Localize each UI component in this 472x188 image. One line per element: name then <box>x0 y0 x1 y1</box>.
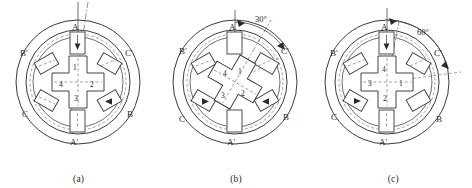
stator-pole-C <box>34 90 59 112</box>
rotation-angle-label: 60° <box>417 27 429 37</box>
pole-body-A <box>227 32 242 54</box>
rotor-number-top: 1 <box>238 67 242 76</box>
panel-b: 30° <box>157 0 314 188</box>
rotor-number-top: 1 <box>73 63 77 72</box>
rotation-angle-label: 30° <box>255 14 267 24</box>
stator-pole-A <box>379 32 394 54</box>
stator-label-lower-right: B <box>436 114 442 124</box>
stator-label-upper-left: B' <box>179 46 187 56</box>
rotor-number-bottom: 3 <box>221 91 225 100</box>
stator-label-top: A <box>381 22 388 32</box>
stator-label-top: A <box>229 22 236 32</box>
figure-row: 1 2 3 4 A B' C' C B A' (a) <box>0 0 472 188</box>
rotor-number-bottom: 2 <box>383 94 387 103</box>
stator-label-upper-right: C' <box>434 48 442 58</box>
rotor-number-left: 3 <box>368 79 372 88</box>
stator-pole-C <box>343 90 368 112</box>
pole-body-Aprime <box>227 110 242 132</box>
stator-pole-Aprime <box>379 110 394 132</box>
pole-body-C <box>34 90 59 112</box>
motor-diagram-a: 1 2 3 4 A B' C' C B A' <box>0 0 157 188</box>
motor-diagram-b: 30° <box>157 0 314 188</box>
stator-label-upper-right: C' <box>281 46 289 56</box>
stator-pole-C <box>191 90 216 112</box>
rotor-number-bottom: 3 <box>74 94 78 103</box>
arc-arrow-end <box>441 61 449 69</box>
stator-label-lower-left: C <box>22 109 28 119</box>
rotor-number-right: 1 <box>399 79 403 88</box>
rotor-number-top: 4 <box>382 65 386 74</box>
panel-caption-c: (c) <box>315 174 472 184</box>
stator-label-lower-right: B <box>127 109 133 119</box>
rotor-number-right: 2 <box>241 89 245 98</box>
stator-pole-Aprime <box>70 110 85 132</box>
panel-caption-b: (b) <box>157 174 314 184</box>
stator-pole-Cprime <box>254 53 279 75</box>
stator-pole-A <box>227 32 242 54</box>
pole-body-Cprime <box>406 53 431 75</box>
pole-body-Cprime <box>97 53 122 75</box>
motor-diagram-c: 60° <box>315 0 472 188</box>
rotor-number-left: 4 <box>223 69 227 78</box>
stator-label-lower-right: B <box>283 112 289 122</box>
stator-label-bottom: A' <box>379 137 387 147</box>
panel-caption-a: (a) <box>0 174 157 184</box>
stator-label-top: A <box>72 22 79 32</box>
stator-pole-Cprime <box>97 53 122 75</box>
stator-label-upper-left: B' <box>20 48 28 58</box>
stator-label-bottom: A' <box>227 137 235 147</box>
stator-pole-Cprime <box>406 53 431 75</box>
stator-label-lower-left: C <box>179 114 185 124</box>
arc-arrow-start <box>389 18 397 25</box>
stator-label-upper-left: B' <box>330 48 338 58</box>
stator-label-bottom: A' <box>70 137 78 147</box>
pole-body-Cprime <box>254 53 279 75</box>
stator-pole-Aprime <box>227 110 242 132</box>
panel-c: 60° <box>315 0 472 188</box>
rotor-number-left: 4 <box>59 80 63 89</box>
stator-label-upper-right: C' <box>125 48 133 58</box>
rotor-number-right: 2 <box>90 80 94 89</box>
panel-a: 1 2 3 4 A B' C' C B A' (a) <box>0 0 157 188</box>
stator-label-lower-left: C <box>331 112 337 122</box>
stator-pole-A <box>70 32 85 54</box>
